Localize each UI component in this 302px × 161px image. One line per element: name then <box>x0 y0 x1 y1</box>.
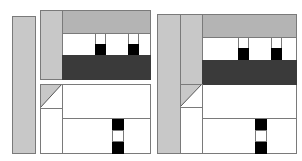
left-stack-block-middle <box>112 130 124 142</box>
right-stack-block-bottom <box>255 142 267 154</box>
right-black-square-1 <box>238 48 249 60</box>
right-stack-block-top <box>255 119 267 130</box>
left-sidebar <box>12 16 36 154</box>
right-secondary-column <box>180 14 203 85</box>
left-bottom-divider-vertical <box>62 84 63 154</box>
left-stack-block-bottom <box>112 142 124 154</box>
right-black-square-2 <box>271 48 282 60</box>
left-top-bar <box>62 10 151 34</box>
right-corner-triangle <box>180 84 203 108</box>
right-lower-divider-horizontal <box>202 118 297 119</box>
right-stack-block-middle <box>255 130 267 142</box>
left-bottom-divider-horizontal <box>62 118 151 119</box>
left-stack-block-top <box>112 119 124 130</box>
right-lower-divider-vertical <box>202 84 203 154</box>
figure-caption: · · · · · · · · · · · · · · · · · <box>0 155 302 161</box>
right-dark-band <box>202 60 297 85</box>
left-top-panel-column <box>40 10 63 80</box>
right-sidebar <box>157 14 181 154</box>
left-black-square-2 <box>128 44 139 55</box>
left-corner-triangle <box>40 84 63 109</box>
left-black-square-1 <box>95 44 106 55</box>
right-top-bar <box>202 14 297 38</box>
left-dark-band <box>62 55 151 80</box>
